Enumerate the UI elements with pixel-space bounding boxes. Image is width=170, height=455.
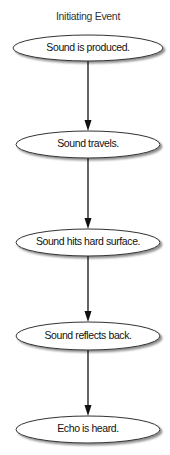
flowchart (0, 0, 170, 455)
node-label-1: Sound is produced. (13, 41, 163, 53)
node-label-4: Sound reflects back. (16, 329, 160, 341)
edge-3 (85, 256, 92, 322)
edge-1 (85, 61, 92, 131)
node-label-3: Sound hits hard surface. (16, 235, 160, 247)
arrowhead-icon (85, 405, 92, 416)
node-label-5: Echo is heard. (16, 422, 160, 434)
edge-4 (85, 350, 92, 416)
edge-2 (85, 158, 92, 229)
arrowhead-icon (85, 311, 92, 322)
arrowhead-icon (85, 120, 92, 131)
node-label-2: Sound travels. (16, 137, 160, 149)
arrowhead-icon (85, 218, 92, 229)
